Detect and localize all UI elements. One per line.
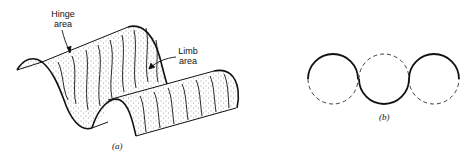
limb-area-label: Limb area: [174, 46, 202, 66]
caption-a: (a): [112, 141, 123, 151]
hinge-label-line2: area: [48, 19, 78, 29]
limb-label-line1: Limb: [174, 46, 202, 56]
limb-label-line2: area: [174, 56, 202, 66]
hinge-arrow: [62, 30, 71, 53]
fold-profile-circles: [308, 54, 459, 104]
hinge-label-line1: Hinge: [48, 9, 78, 19]
hinge-area-label: Hinge area: [48, 9, 78, 29]
caption-b: (b): [379, 112, 390, 122]
